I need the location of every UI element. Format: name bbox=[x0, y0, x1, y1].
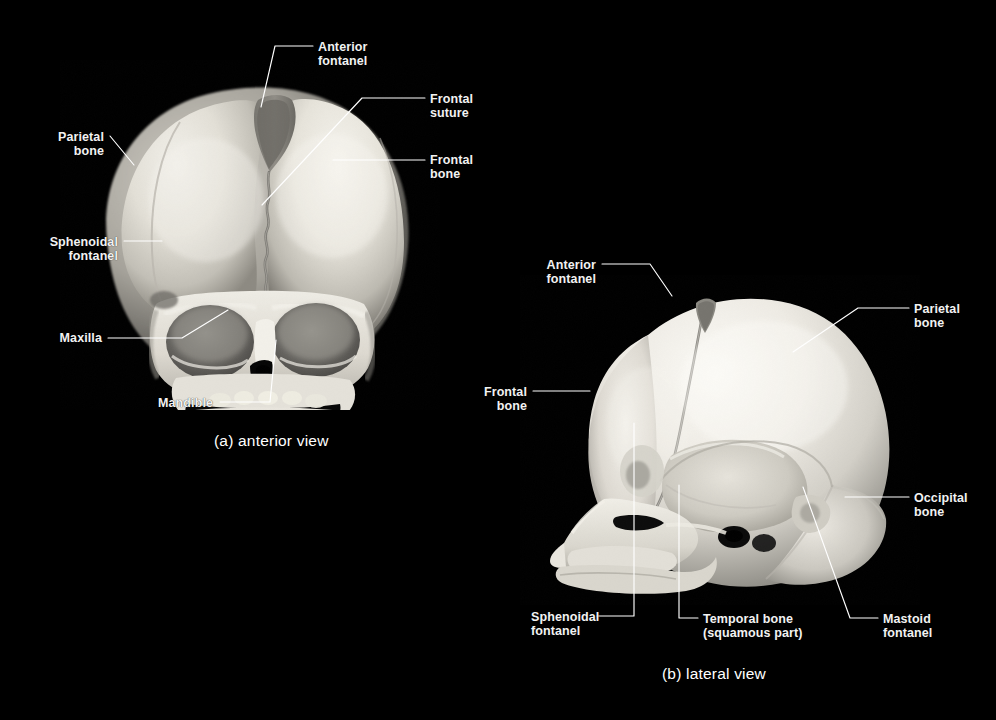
panel-a-caption: (a) anterior view bbox=[214, 432, 329, 450]
b-anterior-fontanel-label: Anterior fontanel bbox=[547, 259, 596, 286]
a-frontal-suture-label: Frontal suture bbox=[430, 93, 473, 120]
a-maxilla-label: Maxilla bbox=[60, 332, 102, 346]
b-mastoid-fontanel-label: Mastoid fontanel bbox=[883, 613, 932, 640]
b-frontal-bone-label: Frontal bone bbox=[484, 386, 527, 413]
b-occipital-bone-label: Occipital bone bbox=[914, 492, 968, 519]
b-temporal-bone-label: Temporal bone (squamous part) bbox=[703, 613, 802, 640]
a-parietal-bone-label: Parietal bone bbox=[58, 131, 104, 158]
b-sphenoidal-fontanel-label: Sphenoidal fontanel bbox=[531, 611, 599, 638]
b-parietal-bone-label: Parietal bone bbox=[914, 303, 960, 330]
a-frontal-bone-label: Frontal bone bbox=[430, 154, 473, 181]
a-mandible-label: Mandible bbox=[158, 397, 213, 411]
a-anterior-fontanel-label: Anterior fontanel bbox=[318, 41, 367, 68]
panel-b-caption: (b) lateral view bbox=[662, 665, 766, 683]
a-sphenoidal-fontanel-label: Sphenoidal fontanel bbox=[50, 236, 118, 263]
lateral-skull-photograph bbox=[520, 275, 920, 605]
anatomy-figure: Anterior fontanelFrontal sutureFrontal b… bbox=[0, 0, 996, 720]
